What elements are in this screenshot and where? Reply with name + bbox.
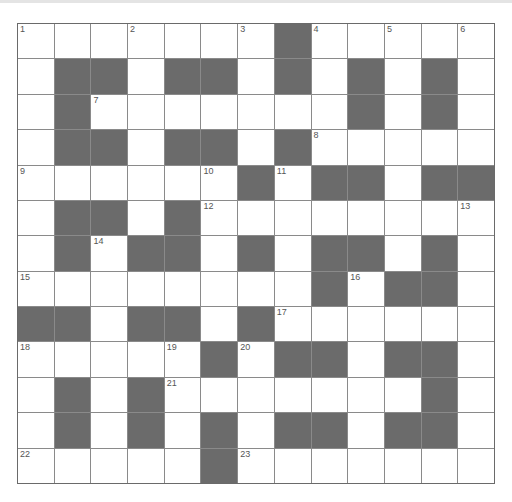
answer-cell[interactable] [275,95,311,129]
answer-cell[interactable] [348,201,384,235]
answer-cell[interactable] [91,378,127,412]
answer-cell[interactable]: 15 [18,272,54,306]
answer-cell[interactable]: 9 [18,166,54,200]
answer-cell[interactable] [238,59,274,93]
answer-cell[interactable] [91,413,127,447]
answer-cell[interactable] [55,166,91,200]
answer-cell[interactable] [165,272,201,306]
answer-cell[interactable]: 18 [18,342,54,376]
answer-cell[interactable] [55,272,91,306]
answer-cell[interactable] [348,378,384,412]
answer-cell[interactable]: 13 [458,201,494,235]
answer-cell[interactable]: 11 [275,166,311,200]
answer-cell[interactable] [458,413,494,447]
answer-cell[interactable] [422,201,458,235]
answer-cell[interactable] [128,449,164,483]
answer-cell[interactable] [422,307,458,341]
answer-cell[interactable]: 17 [275,307,311,341]
answer-cell[interactable] [312,378,348,412]
answer-cell[interactable] [458,307,494,341]
answer-cell[interactable]: 14 [91,236,127,270]
answer-cell[interactable] [238,272,274,306]
answer-cell[interactable]: 16 [348,272,384,306]
answer-cell[interactable]: 22 [18,449,54,483]
answer-cell[interactable] [458,378,494,412]
answer-cell[interactable] [238,130,274,164]
answer-cell[interactable] [165,166,201,200]
answer-cell[interactable] [312,449,348,483]
answer-cell[interactable]: 4 [312,24,348,58]
answer-cell[interactable] [128,272,164,306]
answer-cell[interactable] [385,449,421,483]
answer-cell[interactable] [312,307,348,341]
answer-cell[interactable] [201,272,237,306]
answer-cell[interactable] [422,24,458,58]
answer-cell[interactable] [422,449,458,483]
answer-cell[interactable]: 3 [238,24,274,58]
answer-cell[interactable] [18,59,54,93]
answer-cell[interactable] [458,236,494,270]
answer-cell[interactable] [312,59,348,93]
answer-cell[interactable] [385,95,421,129]
answer-cell[interactable] [238,201,274,235]
answer-cell[interactable] [201,236,237,270]
answer-cell[interactable] [275,378,311,412]
answer-cell[interactable] [312,201,348,235]
answer-cell[interactable] [18,378,54,412]
answer-cell[interactable]: 12 [201,201,237,235]
answer-cell[interactable] [385,59,421,93]
answer-cell[interactable] [91,272,127,306]
answer-cell[interactable] [348,342,384,376]
answer-cell[interactable] [201,378,237,412]
answer-cell[interactable] [91,449,127,483]
answer-cell[interactable] [165,449,201,483]
answer-cell[interactable]: 10 [201,166,237,200]
answer-cell[interactable] [422,130,458,164]
answer-cell[interactable] [275,201,311,235]
answer-cell[interactable] [165,413,201,447]
answer-cell[interactable] [128,166,164,200]
answer-cell[interactable] [385,201,421,235]
answer-cell[interactable] [201,24,237,58]
answer-cell[interactable] [18,236,54,270]
answer-cell[interactable] [458,130,494,164]
answer-cell[interactable] [385,378,421,412]
answer-cell[interactable] [275,272,311,306]
answer-cell[interactable] [55,342,91,376]
answer-cell[interactable]: 7 [91,95,127,129]
answer-cell[interactable] [275,449,311,483]
answer-cell[interactable] [128,130,164,164]
answer-cell[interactable] [91,24,127,58]
answer-cell[interactable] [385,166,421,200]
answer-cell[interactable] [128,342,164,376]
answer-cell[interactable] [91,342,127,376]
answer-cell[interactable]: 20 [238,342,274,376]
answer-cell[interactable] [458,95,494,129]
answer-cell[interactable] [91,166,127,200]
answer-cell[interactable]: 23 [238,449,274,483]
answer-cell[interactable]: 8 [312,130,348,164]
answer-cell[interactable]: 1 [18,24,54,58]
answer-cell[interactable] [128,59,164,93]
answer-cell[interactable] [55,449,91,483]
answer-cell[interactable] [348,24,384,58]
answer-cell[interactable] [348,130,384,164]
answer-cell[interactable] [201,95,237,129]
answer-cell[interactable] [348,413,384,447]
answer-cell[interactable] [348,449,384,483]
answer-cell[interactable]: 2 [128,24,164,58]
answer-cell[interactable] [55,24,91,58]
answer-cell[interactable] [238,378,274,412]
answer-cell[interactable] [18,413,54,447]
answer-cell[interactable] [385,130,421,164]
answer-cell[interactable] [165,95,201,129]
answer-cell[interactable] [458,272,494,306]
answer-cell[interactable]: 6 [458,24,494,58]
answer-cell[interactable] [238,95,274,129]
answer-cell[interactable] [201,307,237,341]
answer-cell[interactable] [312,95,348,129]
answer-cell[interactable] [385,236,421,270]
answer-cell[interactable] [458,342,494,376]
answer-cell[interactable] [238,413,274,447]
answer-cell[interactable] [458,59,494,93]
